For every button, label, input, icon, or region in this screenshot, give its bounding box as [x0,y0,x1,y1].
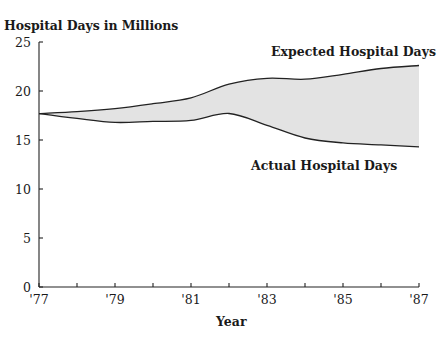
expected-label: Expected Hospital Days [271,44,436,59]
y-tick-label: 5 [23,231,31,246]
y-tick-label: 10 [15,182,31,197]
y-tick-labels: 0510152025 [15,35,31,295]
x-axis-label: Year [216,314,246,329]
x-tick-labels: '77'79'81'83'85'87 [29,292,428,307]
x-tick-label: '79 [105,292,124,307]
y-tick-label: 15 [15,133,31,148]
x-tick-label: '77 [29,292,48,307]
x-tick-label: '85 [333,292,352,307]
y-tick-label: 25 [15,35,31,50]
gap-area [39,66,419,147]
actual-label: Actual Hospital Days [251,158,397,173]
y-tick-label: 20 [15,84,31,99]
x-tick-label: '87 [409,292,428,307]
x-tick-label: '83 [257,292,276,307]
x-tick-label: '81 [181,292,200,307]
